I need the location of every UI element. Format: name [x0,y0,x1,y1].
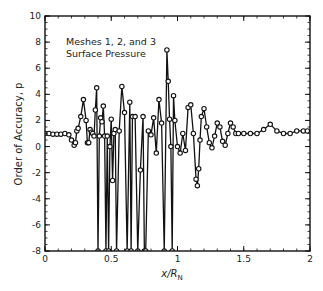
y-tick-label: -8 [32,246,41,256]
data-point-marker [120,84,124,88]
data-point-marker [128,100,132,104]
data-point-marker [159,121,163,125]
data-point-marker [210,146,214,150]
data-point-marker [87,140,91,144]
data-point-marker [261,127,265,131]
data-point-marker [67,133,71,137]
chart-annotation: Meshes 1, 2, and 3 Surface Pressure [66,36,156,59]
data-point-marker [242,131,246,135]
y-tick-label: -2 [32,168,41,178]
data-point-marker [166,79,170,83]
data-point-marker [81,97,85,101]
data-point-marker [207,140,211,144]
data-point-marker [305,129,309,133]
series-line [45,50,307,251]
data-point-marker [157,97,161,101]
y-tick-label: 4 [35,89,41,99]
y-tick-label: -4 [32,194,41,204]
y-tick-label: 0 [35,142,41,152]
data-point-marker [255,131,259,135]
data-point-marker [281,131,285,135]
data-point-marker [110,178,114,182]
data-point-marker [100,120,104,124]
data-point-marker [97,134,101,138]
data-point-marker [199,114,203,118]
x-axis-label: x/RN [160,268,183,282]
data-point-marker [194,177,198,181]
data-point-marker [189,103,193,107]
x-tick-label: 0 [42,254,48,264]
data-point-marker [169,144,173,148]
data-point-marker [84,118,88,122]
x-tick-label: 0.5 [104,254,118,264]
data-series [43,48,310,253]
data-point-marker [73,140,77,144]
data-point-marker [92,134,96,138]
data-point-marker [191,131,195,135]
data-point-marker [154,151,158,155]
data-point-marker [94,86,98,90]
data-point-marker [218,125,222,129]
y-tick-label: 10 [30,11,42,21]
y-tick-label: 6 [35,63,41,73]
data-point-marker [151,116,155,120]
data-point-marker [76,126,80,130]
data-point-marker [173,118,177,122]
annotation-line-1: Meshes 1, 2, and 3 [66,36,156,47]
data-point-marker [197,167,201,171]
data-point-marker [202,106,206,110]
data-point-marker [204,125,208,129]
data-point-marker [295,129,299,133]
data-point-marker [268,122,272,126]
x-axis-label-main: x/R [160,268,177,279]
data-point-marker [212,134,216,138]
data-point-marker [223,143,227,147]
data-point-marker [122,110,126,114]
data-point-marker [138,168,142,172]
data-point-marker [175,144,179,148]
data-point-marker [149,133,153,137]
data-point-marker [248,131,252,135]
data-point-marker [183,148,187,152]
y-tick-label: 2 [35,115,41,125]
y-tick-label: 8 [35,37,41,47]
x-tick-label: 1.5 [237,254,251,264]
data-point-marker [79,114,83,118]
data-point-marker [226,131,230,135]
data-point-marker [171,93,175,97]
x-tick-label: 1 [175,254,181,264]
y-tick-label: -6 [32,220,41,230]
data-point-marker [108,144,112,148]
data-point-marker [167,117,171,121]
data-point-marker [109,117,113,121]
data-point-marker [133,114,137,118]
data-point-marker [236,131,240,135]
data-point-marker [141,114,145,118]
data-point-marker [198,138,202,142]
data-point-marker [231,125,235,129]
annotation-line-2: Surface Pressure [66,48,146,59]
data-point-marker [165,48,169,52]
data-point-marker [288,131,292,135]
data-point-marker [178,151,182,155]
data-point-marker [105,134,109,138]
data-point-marker [93,108,97,112]
x-axis-label-subscript: N [178,274,183,282]
data-point-marker [195,184,199,188]
order-of-accuracy-chart: 00.511.52-8-6-4-20246810 Meshes 1, 2, an… [0,0,323,291]
y-axis-label: Order of Accuracy, p [13,83,24,186]
data-point-marker [117,129,121,133]
data-point-marker [181,131,185,135]
data-point-marker [101,104,105,108]
data-point-marker [275,129,279,133]
x-tick-label: 2 [307,254,313,264]
